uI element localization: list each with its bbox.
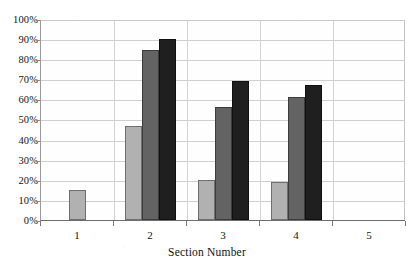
y-tick-label: 30% xyxy=(2,156,38,166)
x-tick-mark xyxy=(113,221,114,226)
y-tick-label: 40% xyxy=(2,136,38,146)
y-tick-label: 10% xyxy=(2,196,38,206)
x-tick-label-2: 2 xyxy=(130,229,170,241)
y-tick-label: 0% xyxy=(2,216,38,226)
bar-chart: 100%90%80%70%60%50%40%30%20%10%0% 12345 … xyxy=(0,0,414,269)
y-tick-label: 90% xyxy=(2,35,38,45)
bar-series-2-cat-3 xyxy=(215,107,232,220)
category-separator xyxy=(260,20,261,220)
bar-series-1-cat-1 xyxy=(69,190,86,220)
y-tick-label: 20% xyxy=(2,176,38,186)
x-tick-mark xyxy=(186,221,187,226)
plot-area xyxy=(40,20,405,221)
bar-series-2-cat-4 xyxy=(288,97,305,220)
category-separator xyxy=(187,20,188,220)
bar-series-3-cat-2 xyxy=(159,39,176,220)
category-separator xyxy=(114,20,115,220)
bar-series-1-cat-4 xyxy=(271,182,288,220)
x-tick-mark xyxy=(40,221,41,226)
bar-series-1-cat-2 xyxy=(125,126,142,220)
y-tick-label: 50% xyxy=(2,115,38,125)
gridline xyxy=(41,40,405,41)
y-tick-label: 60% xyxy=(2,95,38,105)
x-tick-mark xyxy=(332,221,333,226)
gridline xyxy=(41,80,405,81)
y-tick-label: 80% xyxy=(2,55,38,65)
x-tick-label-5: 5 xyxy=(349,229,389,241)
gridline xyxy=(41,100,405,101)
bar-series-3-cat-3 xyxy=(232,81,249,220)
y-tick-label: 70% xyxy=(2,75,38,85)
x-tick-mark xyxy=(405,221,406,226)
gridline xyxy=(41,60,405,61)
x-axis-title: Section Number xyxy=(0,246,414,259)
category-separator xyxy=(333,20,334,220)
gridline xyxy=(41,20,405,21)
x-tick-mark xyxy=(259,221,260,226)
x-tick-label-4: 4 xyxy=(276,229,316,241)
bar-series-1-cat-3 xyxy=(198,180,215,220)
x-tick-label-1: 1 xyxy=(57,229,97,241)
x-tick-label-3: 3 xyxy=(203,229,243,241)
y-tick-label: 100% xyxy=(2,15,38,25)
bar-series-2-cat-2 xyxy=(142,50,159,220)
bar-series-3-cat-4 xyxy=(305,85,322,220)
